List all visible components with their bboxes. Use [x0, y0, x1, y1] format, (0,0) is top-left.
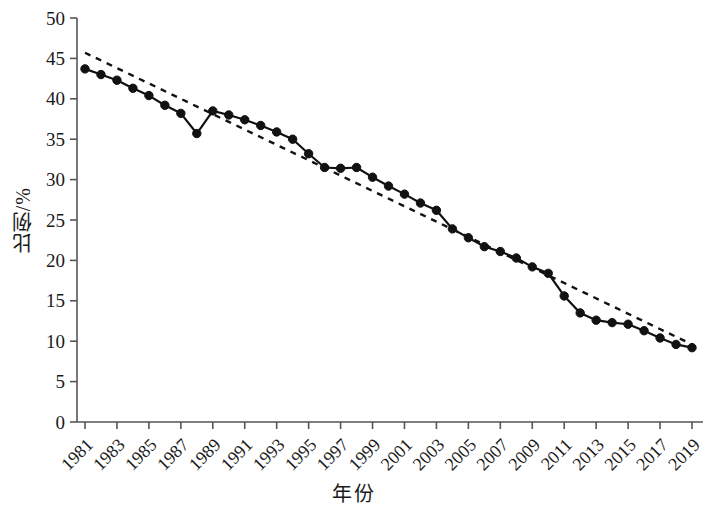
x-tick-label: 1985: [121, 435, 161, 475]
data-point-marker: [320, 163, 328, 171]
data-point-marker: [272, 128, 280, 136]
y-tick-label: 50: [46, 8, 65, 29]
axes: [77, 18, 703, 422]
data-point-marker: [288, 135, 296, 143]
data-point-marker: [688, 343, 696, 351]
line-chart-plot: 05101520253035404550 1981198319851987198…: [0, 0, 708, 507]
x-axis-title: 年份: [0, 478, 708, 507]
data-point-marker: [496, 247, 504, 255]
x-tick-label: 2005: [441, 435, 481, 475]
data-point-marker: [225, 111, 233, 119]
data-point-marker: [113, 76, 121, 84]
data-point-marker: [544, 269, 552, 277]
x-axis-ticks: 1981198319851987198919911993199519971999…: [57, 422, 704, 474]
data-point-marker: [464, 234, 472, 242]
data-point-marker: [608, 318, 616, 326]
data-point-marker: [97, 70, 105, 78]
data-point-marker: [624, 320, 632, 328]
y-tick-label: 5: [56, 371, 66, 392]
data-point-marker: [640, 326, 648, 334]
data-point-marker: [432, 206, 440, 214]
data-point-marker: [416, 199, 424, 207]
data-point-marker: [161, 101, 169, 109]
x-tick-label: 2019: [664, 435, 704, 475]
data-point-marker: [400, 190, 408, 198]
x-tick-label: 2017: [632, 435, 672, 475]
y-tick-label: 35: [46, 129, 65, 150]
x-tick-label: 2003: [409, 435, 449, 475]
y-tick-label: 40: [46, 88, 65, 109]
y-axis-title: 比例/%: [2, 150, 42, 290]
data-point-marker: [193, 129, 201, 137]
data-point-marker: [209, 107, 217, 115]
y-tick-label: 15: [46, 290, 65, 311]
data-point-marker: [480, 242, 488, 250]
data-point-marker: [672, 340, 680, 348]
data-point-marker: [448, 225, 456, 233]
data-point-markers: [81, 65, 696, 352]
x-tick-label: 2007: [473, 435, 513, 475]
y-tick-label: 20: [46, 250, 65, 271]
x-tick-label: 1991: [217, 435, 257, 475]
series-line: [85, 69, 692, 348]
data-point-marker: [145, 91, 153, 99]
x-tick-label: 2015: [600, 435, 640, 475]
x-tick-label: 1987: [153, 435, 193, 475]
data-point-marker: [384, 182, 392, 190]
x-tick-label: 1983: [89, 435, 129, 475]
x-tick-label: 2009: [504, 435, 544, 475]
data-point-marker: [656, 334, 664, 342]
x-tick-label: 1999: [345, 435, 385, 475]
y-tick-label: 10: [46, 331, 65, 352]
x-tick-label: 1997: [313, 435, 353, 475]
trend-line: [85, 53, 692, 345]
data-point-marker: [304, 150, 312, 158]
data-point-marker: [512, 254, 520, 262]
x-tick-label: 1981: [57, 435, 97, 475]
data-point-marker: [81, 65, 89, 73]
data-point-marker: [368, 173, 376, 181]
chart-figure: 05101520253035404550 1981198319851987198…: [0, 0, 708, 507]
y-tick-label: 45: [46, 48, 65, 69]
data-line-series: [85, 69, 692, 348]
data-point-marker: [177, 109, 185, 117]
data-point-marker: [576, 309, 584, 317]
data-point-marker: [528, 263, 536, 271]
data-point-marker: [592, 316, 600, 324]
x-tick-label: 1995: [281, 435, 321, 475]
y-axis-title-text: 比例/%: [8, 187, 37, 253]
x-tick-label: 2001: [377, 435, 417, 475]
y-tick-label: 25: [46, 210, 65, 231]
x-tick-label: 2011: [537, 435, 576, 474]
data-point-marker: [257, 121, 265, 129]
y-tick-label: 30: [46, 169, 65, 190]
data-point-marker: [352, 163, 360, 171]
data-point-marker: [129, 84, 137, 92]
x-tick-label: 1993: [249, 435, 289, 475]
trend-line-series: [85, 53, 692, 345]
data-point-marker: [241, 116, 249, 124]
y-tick-label: 0: [56, 412, 66, 433]
x-tick-label: 1989: [185, 435, 225, 475]
data-point-marker: [336, 164, 344, 172]
data-point-marker: [560, 292, 568, 300]
x-tick-label: 2013: [568, 435, 608, 475]
y-axis-ticks: 05101520253035404550: [46, 8, 77, 433]
